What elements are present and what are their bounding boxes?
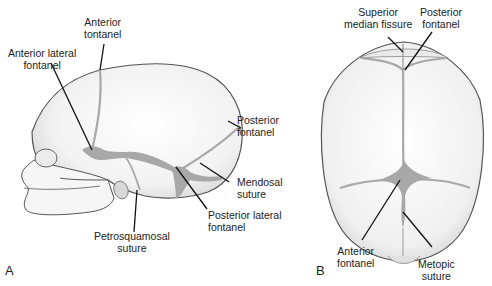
label-anterior-fontanel-a: Anterior tontanel xyxy=(84,16,121,40)
label-anterior-fontanel-b: Anterior fontanel xyxy=(337,245,374,269)
label-line: Superior xyxy=(344,6,412,18)
label-posterior-fontanel-b: Posterior fontanel xyxy=(420,6,462,30)
label-posterior-lateral-fontanel: Posterior lateral fontanel xyxy=(208,209,282,233)
label-line: Anterior xyxy=(84,16,121,28)
label-line: Anterior lateral xyxy=(8,47,76,59)
label-line: Metopic xyxy=(418,258,455,270)
label-line: Posterior lateral xyxy=(208,209,282,221)
nasal-region xyxy=(388,256,420,264)
superior-skull-view xyxy=(321,32,483,264)
label-line: tontanel xyxy=(84,28,121,40)
label-line: Petrosquamosal xyxy=(94,230,170,242)
orbit xyxy=(35,149,57,167)
label-line: Posterior xyxy=(420,6,462,18)
lateral-skull-view xyxy=(22,44,243,232)
panel-letter-a: A xyxy=(5,263,14,278)
label-line: fontanel xyxy=(420,18,462,30)
label-line: suture xyxy=(237,188,283,200)
label-anterior-lateral-fontanel: Anterior lateral fontanel xyxy=(8,47,76,71)
skull-diagram xyxy=(0,0,492,286)
label-line: fontanel xyxy=(237,126,279,138)
label-line: Posterior xyxy=(237,114,279,126)
label-metopic-suture: Metopic suture xyxy=(418,258,455,282)
label-line: suture xyxy=(418,270,455,282)
label-line: fontanel xyxy=(208,221,282,233)
label-line: fontanel xyxy=(337,257,374,269)
label-superior-median-fissure: Superior median fissure xyxy=(344,6,412,30)
label-line: Anterior xyxy=(337,245,374,257)
label-petrosquamosal-suture: Petrosquamosal suture xyxy=(94,230,170,254)
label-line: median fissure xyxy=(344,18,412,30)
panel-letter-b: B xyxy=(316,263,325,278)
label-posterior-fontanel-a: Posterior fontanel xyxy=(237,114,279,138)
label-mendosal-suture: Mendosal suture xyxy=(237,176,283,200)
label-line: suture xyxy=(94,242,170,254)
label-line: fontanel xyxy=(8,59,76,71)
label-line: Mendosal xyxy=(237,176,283,188)
